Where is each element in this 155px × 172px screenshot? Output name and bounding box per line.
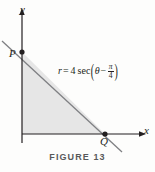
curve-equation-label: r=4sec(θ−π4): [58, 63, 118, 81]
point-P-marker: [19, 49, 24, 54]
point-Q-label: Q: [100, 136, 108, 147]
equation-fraction-denominator: 4: [108, 72, 114, 80]
figure-13: y x P Q r=4sec(θ−π4) FIGURE 13: [0, 0, 155, 172]
y-axis-label: y: [20, 4, 25, 15]
equation-coefficient: 4: [70, 65, 77, 76]
figure-caption: FIGURE 13: [0, 153, 155, 162]
equation-function: sec: [77, 65, 91, 76]
equation-fraction: π4: [108, 63, 114, 81]
equation-equals: =: [62, 65, 70, 76]
equation-theta: θ: [95, 65, 100, 76]
x-axis-label: x: [144, 125, 149, 136]
figure-graphic: [0, 0, 155, 172]
equation-fraction-numerator: π: [108, 63, 114, 71]
equation-close-paren: ): [114, 62, 118, 81]
point-P-label: P: [9, 48, 16, 59]
equation-minus: −: [100, 65, 108, 76]
equation-open-paren: (: [90, 62, 94, 81]
